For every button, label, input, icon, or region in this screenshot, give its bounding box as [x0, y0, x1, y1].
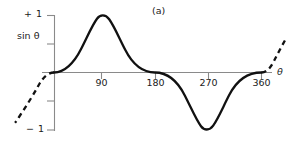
sine-curve-figure: (a) + 1 sin θ − 1 90 180 270 360 θ — [0, 0, 294, 152]
dashed-extension-left — [15, 73, 54, 123]
y-axis-max-label: + 1 — [24, 9, 43, 19]
y-axis-min-label: − 1 — [26, 124, 45, 134]
panel-label: (a) — [152, 6, 165, 16]
x-tick-label-360: 360 — [252, 78, 270, 88]
y-axis-title: sin θ — [17, 31, 39, 41]
x-tick-label-180: 180 — [146, 78, 164, 88]
x-tick-label-90: 90 — [95, 78, 107, 88]
x-tick-label-270: 270 — [199, 78, 217, 88]
x-axis-title: θ — [277, 67, 283, 77]
